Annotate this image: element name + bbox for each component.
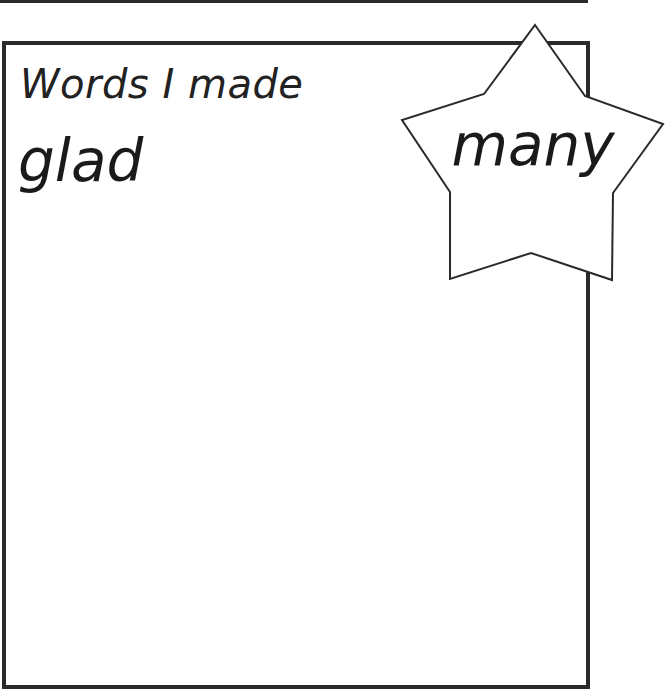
box-heading: Words I made bbox=[20, 64, 303, 104]
made-word-entry: glad bbox=[18, 132, 143, 190]
top-divider-line bbox=[0, 0, 588, 3]
star-target-word: many bbox=[448, 116, 618, 174]
